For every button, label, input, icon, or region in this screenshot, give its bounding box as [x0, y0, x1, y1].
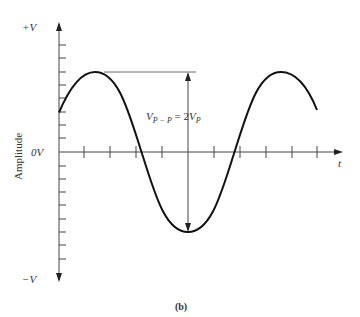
x-axis [59, 146, 343, 158]
figure-caption: (b) [175, 301, 187, 313]
y-axis-up-arrow-icon [56, 22, 62, 31]
equals-sign: = 2 [172, 110, 189, 122]
arrow-up-icon [185, 72, 191, 81]
y-zero-label: 0V [31, 146, 45, 158]
y-top-label: +V [22, 21, 37, 33]
vp-subscript: P [195, 116, 201, 125]
sine-wave-diagram: +V 0V −V t Amplitude VP − P = 2VP (b) [0, 0, 360, 317]
arrow-down-icon [185, 223, 191, 232]
peak-to-peak-equation: VP − P = 2VP [146, 110, 201, 125]
y-bottom-label: −V [22, 273, 37, 285]
y-axis-title: Amplitude [12, 133, 24, 180]
x-axis-arrow-icon [334, 149, 343, 155]
vpp-subscript: P − P [152, 116, 172, 125]
y-axis-down-arrow-icon [56, 273, 62, 282]
x-axis-label: t [338, 157, 342, 169]
